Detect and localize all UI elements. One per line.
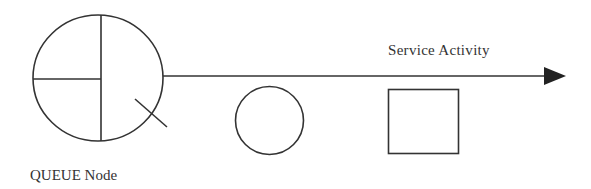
queue-node-symbol [33, 15, 167, 141]
service-activity-arrow [163, 67, 566, 85]
square-symbol [389, 90, 459, 154]
arrowhead-icon [544, 67, 566, 85]
circle-symbol [236, 87, 304, 155]
queue-node-circle [33, 15, 163, 141]
service-activity-label: Service Activity [388, 42, 490, 59]
queue-node-label: QUEUE Node [30, 167, 117, 184]
diagram-svg [0, 0, 591, 189]
diagram-canvas: Service Activity QUEUE Node [0, 0, 591, 189]
queue-node-diagonal-tick [135, 99, 167, 127]
